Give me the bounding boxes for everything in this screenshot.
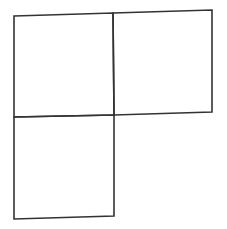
- square-bottom-left: [14, 115, 114, 219]
- square-top-left: [14, 13, 114, 117]
- l-shape-squares-diagram: [0, 0, 227, 229]
- square-top-right: [113, 10, 212, 115]
